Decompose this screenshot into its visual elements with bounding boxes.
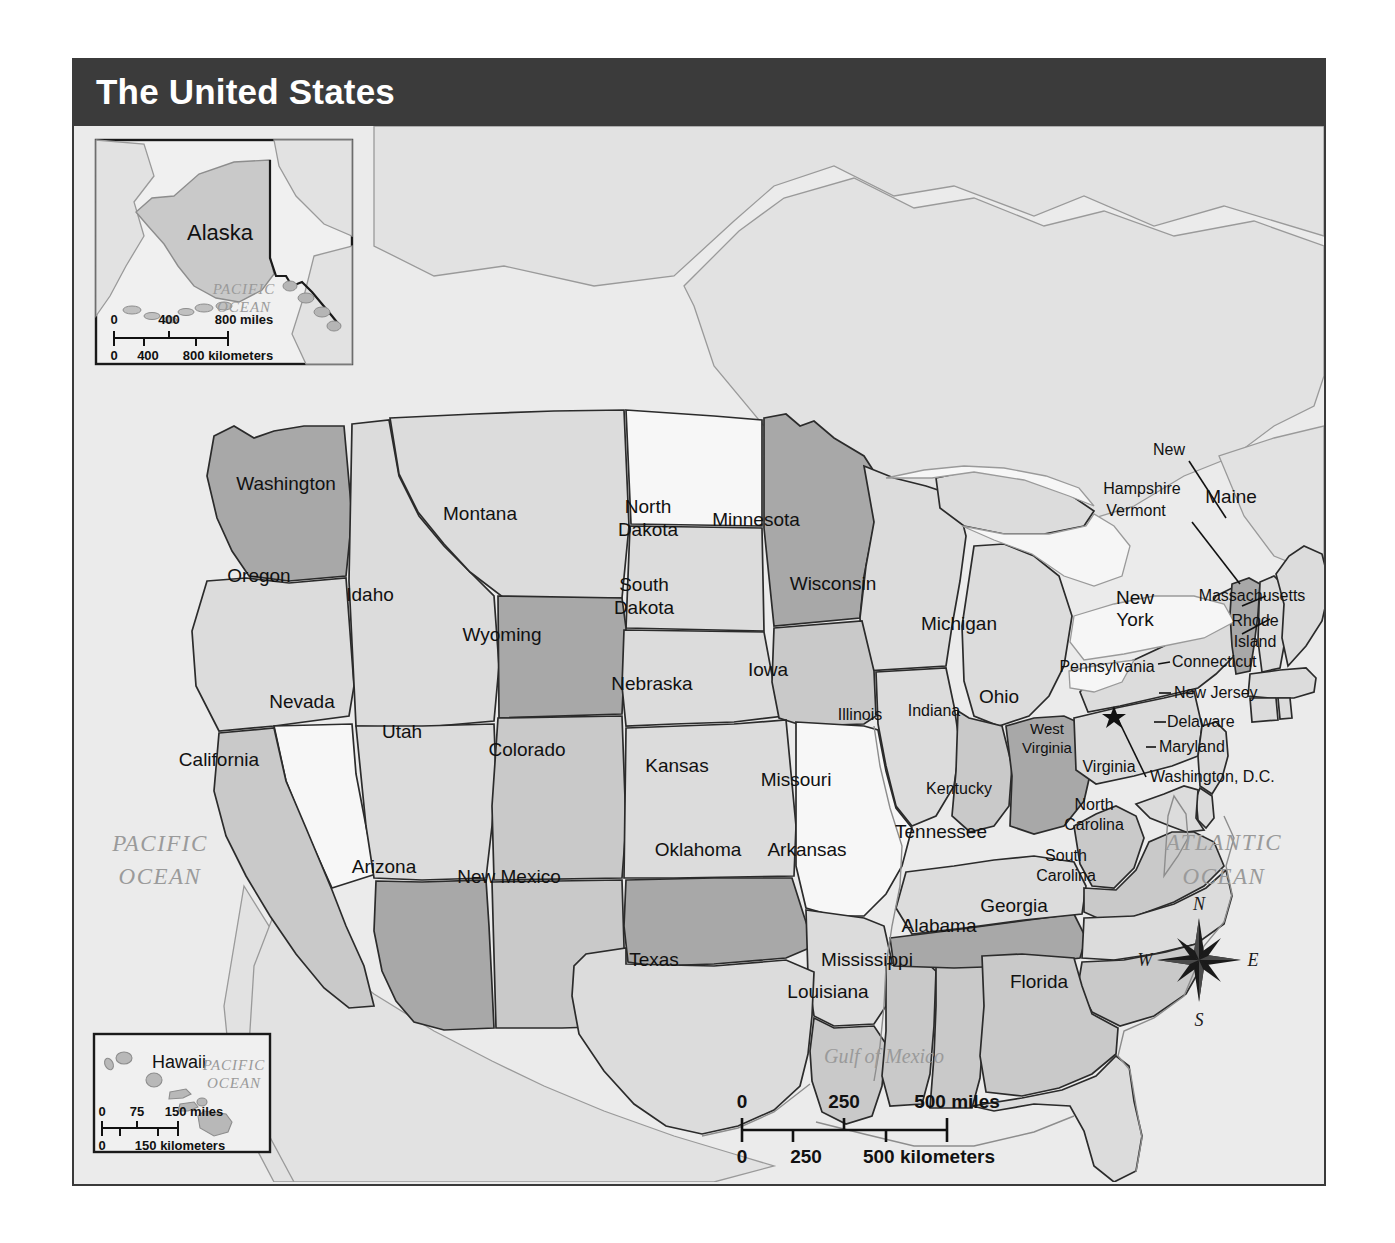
label-nebraska: Nebraska — [611, 673, 693, 694]
label-atlantic-ocean-line1: ATLANTIC — [1164, 830, 1282, 855]
scale-km-250: 250 — [790, 1146, 822, 1167]
label-hawaii: Hawaii — [152, 1052, 206, 1072]
alaska-scale-km-400: 400 — [137, 348, 159, 363]
label-kansas: Kansas — [645, 755, 708, 776]
label-nevada: Nevada — [269, 691, 335, 712]
label-hawaii-pacific-2: OCEAN — [207, 1075, 261, 1091]
alaska-scale-miles-0: 0 — [110, 312, 117, 327]
hawaii-scale-miles-150: 150 miles — [165, 1104, 224, 1119]
label-texas: Texas — [629, 949, 679, 970]
label-oregon: Oregon — [227, 565, 290, 586]
label-kentucky: Kentucky — [926, 780, 992, 797]
label-indiana: Indiana — [908, 702, 961, 719]
label-north-dakota-2: Dakota — [618, 519, 679, 540]
label-south-carolina-2: Carolina — [1036, 867, 1096, 884]
label-florida: Florida — [1010, 971, 1069, 992]
label-colorado: Colorado — [488, 739, 565, 760]
scale-km-500: 500 kilometers — [863, 1146, 995, 1167]
label-tennessee: Tennessee — [895, 821, 987, 842]
label-south-dakota-2: Dakota — [614, 597, 675, 618]
label-michigan: Michigan — [921, 613, 997, 634]
label-west-virginia-1: West — [1030, 720, 1065, 737]
alaska-scale-km-800: 800 kilometers — [183, 348, 273, 363]
compass-south-label: S — [1195, 1010, 1204, 1030]
label-north-carolina-1: North — [1074, 796, 1113, 813]
label-montana: Montana — [443, 503, 517, 524]
label-arkansas: Arkansas — [767, 839, 846, 860]
label-virginia: Virginia — [1082, 758, 1135, 775]
compass-east-label: E — [1247, 950, 1259, 970]
state-massachusetts[interactable] — [1248, 668, 1316, 698]
label-maryland: Maryland — [1159, 738, 1225, 755]
label-alaska: Alaska — [187, 220, 254, 245]
label-delaware: Delaware — [1167, 713, 1235, 730]
state-connecticut[interactable] — [1250, 698, 1278, 722]
alaska-inset[interactable]: Alaska PACIFIC OCEAN 0 400 800 miles 0 4… — [96, 140, 352, 364]
scale-miles-0: 0 — [737, 1091, 748, 1112]
label-minnesota: Minnesota — [712, 509, 800, 530]
label-mississippi: Mississippi — [821, 949, 913, 970]
label-pacific-ocean-line2: OCEAN — [119, 864, 202, 889]
scale-miles-500: 500 miles — [914, 1091, 1000, 1112]
label-vermont: Vermont — [1106, 502, 1166, 519]
label-georgia: Georgia — [980, 895, 1048, 916]
alaska-scale-miles-400: 400 — [158, 312, 180, 327]
label-washington: Washington — [236, 473, 336, 494]
hawaii-scale-km-0: 0 — [98, 1138, 105, 1153]
label-new-york-1: New — [1116, 587, 1154, 608]
map-title-bar: The United States — [72, 58, 1326, 126]
label-atlantic-ocean-line2: OCEAN — [1183, 864, 1266, 889]
label-missouri: Missouri — [761, 769, 832, 790]
state-mississippi[interactable] — [882, 960, 936, 1106]
label-wisconsin: Wisconsin — [790, 573, 877, 594]
label-new-hampshire-2: Hampshire — [1103, 480, 1180, 497]
label-utah: Utah — [382, 721, 422, 742]
label-new-mexico: New Mexico — [457, 866, 560, 887]
label-wyoming: Wyoming — [462, 624, 541, 645]
label-pennsylvania: Pennsylvania — [1059, 658, 1154, 675]
hawaii-scale-km-150: 150 kilometers — [135, 1138, 225, 1153]
us-map-svg[interactable]: .w { fill:#f7f7f7; stroke:#2b2b2b; strok… — [74, 126, 1324, 1182]
label-north-dakota-1: North — [625, 496, 671, 517]
label-west-virginia-2: Virginia — [1022, 739, 1072, 756]
compass-north-label: N — [1192, 894, 1206, 914]
hawaii-scale-miles-75: 75 — [130, 1104, 144, 1119]
label-idaho: Idaho — [346, 584, 394, 605]
state-alabama[interactable] — [930, 954, 986, 1108]
label-iowa: Iowa — [748, 659, 789, 680]
scale-miles-250: 250 — [828, 1091, 860, 1112]
label-north-carolina-2: Carolina — [1064, 816, 1124, 833]
label-south-carolina-1: South — [1045, 847, 1087, 864]
label-hawaii-pacific-1: PACIFIC — [202, 1057, 266, 1073]
hawaii-inset[interactable]: Hawaii PACIFIC OCEAN 0 75 150 miles 0 15… — [94, 1034, 270, 1153]
label-gulf-of-mexico: Gulf of Mexico — [824, 1045, 944, 1068]
map-page: The United States .w { fill:#f7f7f7; str… — [0, 0, 1395, 1243]
label-louisiana: Louisiana — [787, 981, 869, 1002]
label-alabama: Alabama — [902, 915, 977, 936]
alaska-scale-km-0: 0 — [110, 348, 117, 363]
label-new-york-2: York — [1116, 609, 1154, 630]
scale-km-0: 0 — [737, 1146, 748, 1167]
state-indiana[interactable] — [952, 711, 1012, 832]
label-rhode-island-2: Island — [1234, 633, 1277, 650]
compass-west-label: W — [1138, 950, 1155, 970]
label-california: California — [179, 749, 260, 770]
hawaii-scale-miles-0: 0 — [98, 1104, 105, 1119]
label-connecticut: Connecticut — [1172, 653, 1257, 670]
label-illinois: Illinois — [838, 706, 882, 723]
map-canvas[interactable]: .w { fill:#f7f7f7; stroke:#2b2b2b; strok… — [72, 126, 1326, 1186]
label-south-dakota-1: South — [619, 574, 669, 595]
label-pacific-ocean-line1: PACIFIC — [111, 831, 208, 856]
label-washington-dc: Washington, D.C. — [1150, 768, 1275, 785]
page-title: The United States — [96, 72, 395, 112]
label-new-jersey: New Jersey — [1174, 684, 1258, 701]
label-arizona: Arizona — [352, 856, 417, 877]
state-wyoming[interactable] — [498, 596, 626, 718]
label-alaska-pacific-1: PACIFIC — [212, 281, 276, 297]
label-new-hampshire-1: New — [1153, 441, 1185, 458]
label-oklahoma: Oklahoma — [655, 839, 742, 860]
state-rhode-island[interactable] — [1278, 698, 1292, 719]
label-ohio: Ohio — [979, 686, 1019, 707]
alaska-scale-miles-800: 800 miles — [215, 312, 274, 327]
